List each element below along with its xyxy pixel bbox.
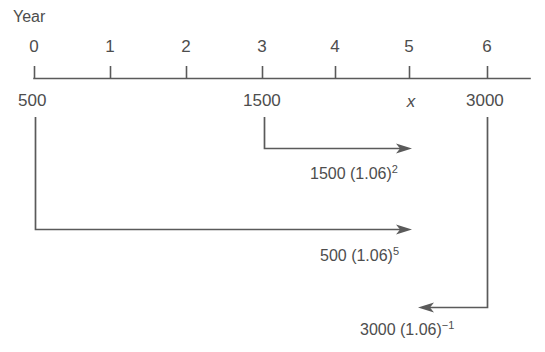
timeline-graphics bbox=[0, 0, 545, 352]
axis-ticks bbox=[35, 66, 488, 78]
expression-500-base: 500 (1.06) bbox=[320, 247, 393, 264]
expression-3000: 3000 (1.06)−1 bbox=[360, 322, 454, 338]
expression-1500-base: 1500 (1.06) bbox=[310, 165, 392, 182]
expression-3000-base: 3000 (1.06) bbox=[360, 321, 442, 338]
cashflow-label-x: x bbox=[407, 93, 416, 110]
expression-3000-exponent: −1 bbox=[442, 319, 455, 331]
axis-title: Year bbox=[13, 9, 45, 25]
tick-label-1: 1 bbox=[105, 38, 114, 55]
tick-label-2: 2 bbox=[181, 38, 190, 55]
tick-label-6: 6 bbox=[482, 38, 491, 55]
cashflow-label-3000: 3000 bbox=[466, 92, 504, 109]
tick-label-0: 0 bbox=[29, 38, 38, 55]
expression-500-exponent: 5 bbox=[393, 245, 399, 257]
arrow-3000-path bbox=[426, 117, 488, 308]
timeline-diagram: Year 0 1 2 3 4 5 6 500 1500 x 3000 1500 … bbox=[0, 0, 545, 352]
tick-label-4: 4 bbox=[330, 38, 339, 55]
cashflow-label-500: 500 bbox=[18, 92, 46, 109]
arrow-1500-path bbox=[265, 117, 405, 149]
expression-500: 500 (1.06)5 bbox=[320, 248, 399, 264]
expression-1500-exponent: 2 bbox=[392, 163, 398, 175]
tick-label-3: 3 bbox=[257, 38, 266, 55]
tick-label-5: 5 bbox=[404, 38, 413, 55]
cashflow-label-1500: 1500 bbox=[243, 92, 281, 109]
expression-1500: 1500 (1.06)2 bbox=[310, 166, 398, 182]
